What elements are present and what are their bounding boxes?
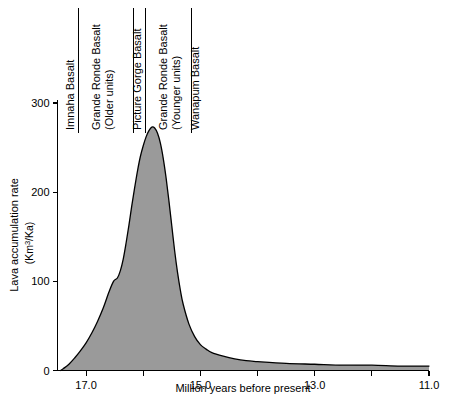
y-axis-tick-label: 100	[31, 275, 49, 287]
unit-label-secondary: (Younger units)	[170, 56, 182, 130]
x-axis-title: Million years before present	[175, 382, 310, 394]
unit-label: Wanapum Basalt	[189, 47, 201, 130]
x-axis-tick-label: 11.0	[419, 379, 440, 391]
unit-label: Imnaha Basalt	[64, 60, 76, 130]
y-axis-tick-label: 300	[31, 97, 49, 109]
y-axis-tick-label: 200	[31, 186, 49, 198]
stratigraphic-unit-labels: Imnaha BasaltGrande Ronde Basalt(Older u…	[64, 24, 201, 130]
chart-figure: 0100200300 17.015.013.011.0 Imnaha Basal…	[0, 0, 452, 405]
unit-label-secondary: (Older units)	[103, 69, 115, 130]
x-axis-ticks	[86, 371, 429, 376]
lava-rate-area-fill	[60, 127, 429, 371]
x-axis-tick-label: 17.0	[75, 379, 96, 391]
y-axis-title: Lava accumulation rate	[8, 178, 20, 292]
unit-label: Picture Gorge Basalt	[131, 29, 143, 131]
y-axis-units-label: (Km3/Ka)	[23, 222, 36, 265]
y-axis-tick-label: 0	[43, 365, 49, 377]
unit-label: Grande Ronde Basalt	[157, 24, 169, 130]
unit-label: Grande Ronde Basalt	[90, 24, 102, 130]
lava-accumulation-chart: 0100200300 17.015.013.011.0 Imnaha Basal…	[0, 0, 452, 405]
y-axis-ticks	[53, 103, 58, 371]
